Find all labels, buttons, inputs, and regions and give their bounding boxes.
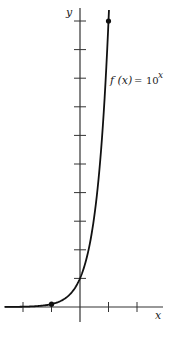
function-label: f (x) = 10 x — [109, 70, 163, 87]
function-curve — [4, 10, 108, 307]
function-label-eq: = — [134, 75, 142, 86]
x-axis-label: x — [155, 309, 162, 322]
function-label-exponent: x — [158, 70, 163, 80]
function-label-base: 10 — [146, 75, 159, 86]
exponential-graph: y x f (x) = 10 x — [0, 0, 172, 340]
data-point — [49, 302, 54, 307]
y-axis-label: y — [65, 6, 73, 19]
data-point — [106, 18, 111, 23]
function-label-lhs: f (x) — [109, 74, 132, 87]
